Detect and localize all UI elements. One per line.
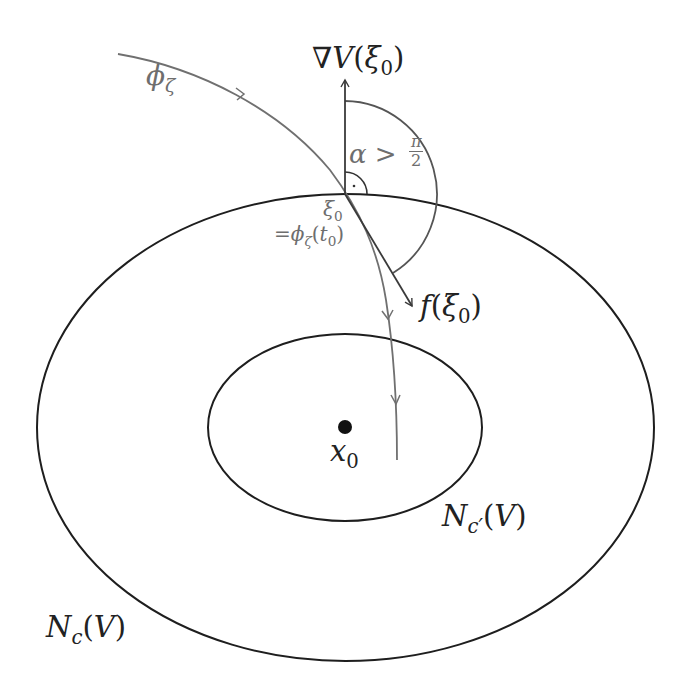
inner-level-set-label: Nc′(V): [442, 502, 527, 531]
gradient-label: ∇V(ξ0): [312, 44, 404, 73]
right-angle-arc: [345, 172, 367, 194]
point-xi0-label: ξ0: [323, 199, 343, 219]
angle-alpha-arc: [345, 101, 437, 273]
field-label: f(ξ0): [420, 292, 482, 321]
pi-over-two: π2: [409, 134, 424, 169]
point-equation-label: =ϕζ(t0): [274, 224, 344, 244]
trajectory-curve: [118, 54, 397, 460]
field-vector-arrow: [345, 194, 412, 306]
outer-level-set-label: Nc(V): [46, 613, 126, 642]
equilibrium-label: x0: [330, 437, 359, 466]
diagram-svg: [0, 0, 685, 691]
trajectory-label: ϕζ: [146, 62, 175, 90]
angle-label: α > π2: [349, 138, 423, 173]
nabla-symbol: ∇: [312, 41, 332, 75]
right-angle-dot: [353, 185, 356, 188]
diagram-canvas: ∇V(ξ0) ϕζ α > π2 ξ0 =ϕζ(t0) f(ξ0) x0 Nc′…: [0, 0, 685, 691]
equilibrium-point-dot: [338, 420, 352, 434]
